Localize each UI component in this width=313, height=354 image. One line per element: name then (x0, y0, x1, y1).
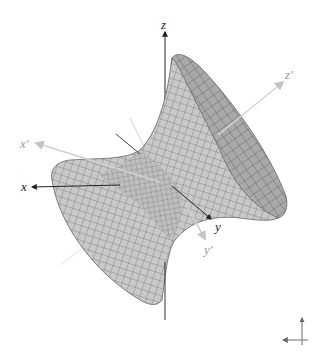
y-prime-axis-label: y′ (204, 243, 213, 256)
axis-segment-behind (116, 134, 140, 154)
x-axis-label: x (21, 180, 27, 193)
y-axis-label: y (215, 220, 221, 233)
x-prime-axis-label: x′ (20, 137, 29, 150)
z-prime-axis-label: z′ (285, 68, 293, 81)
view-orientation-indicator (283, 318, 308, 345)
z-axis-label: z (161, 18, 166, 31)
hyperboloid-diagram (0, 0, 313, 354)
